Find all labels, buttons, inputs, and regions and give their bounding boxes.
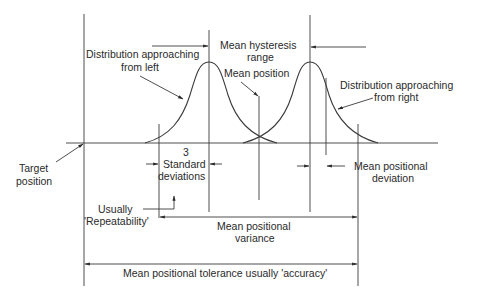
target-label-1: Target [19,162,48,174]
mean-position-label: Mean position [224,67,290,79]
target-pointer [56,144,83,162]
hysteresis-label-1: Mean hysteresis [220,39,296,51]
repeatability-label-2: 'Repeatability' [84,215,149,227]
dist-left-pointer [140,76,183,99]
dist-right-label-2: from right [374,91,418,103]
std-label-1: 3 [183,146,189,158]
variance-label-1: Mean positional [217,220,291,232]
mean-deviation-label-1: Mean positional [354,160,428,172]
mean-position-pointer [241,82,258,96]
repeatability-bracket [143,196,174,209]
positioning-diagram: Distribution approaching from left Mean … [0,0,480,301]
dist-left-label-1: Distribution approaching [86,48,199,60]
dist-right-label-1: Distribution approaching [340,79,453,91]
hysteresis-label-2: range [247,51,274,63]
repeatability-label-1: Usually [98,203,133,215]
dist-right-pointer [338,98,373,109]
std-label-3: deviations [158,170,205,182]
mean-deviation-label-2: deviation [372,172,414,184]
std-label-2: Standard [163,158,206,170]
tolerance-label: Mean positional tolerance usually 'accur… [123,267,327,279]
dist-left-label-2: from left [121,61,159,73]
target-label-2: position [16,175,52,187]
variance-label-2: variance [235,232,275,244]
